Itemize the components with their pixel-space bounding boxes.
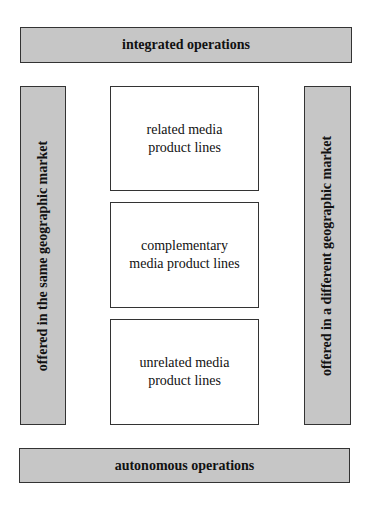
product-line-box-complementary: complementary media product lines [110,202,259,308]
product-line-box-unrelated: unrelated media product lines [110,319,259,425]
same-geographic-market-column: offered in the same geographic market [20,86,66,425]
integrated-operations-label: integrated operations [122,37,250,53]
complementary-media-product-lines-label: complementary media product lines [125,237,245,273]
unrelated-media-product-lines-label: unrelated media product lines [125,354,245,390]
different-geographic-market-label: offered in a different geographic market [320,135,336,375]
autonomous-operations-label: autonomous operations [115,458,255,474]
same-geographic-market-label: offered in the same geographic market [35,140,51,370]
integrated-operations-bar: integrated operations [20,27,352,63]
product-line-box-related: related media product lines [110,86,259,191]
related-media-product-lines-label: related media product lines [125,121,245,157]
autonomous-operations-bar: autonomous operations [19,448,350,483]
different-geographic-market-column: offered in a different geographic market [304,86,351,425]
